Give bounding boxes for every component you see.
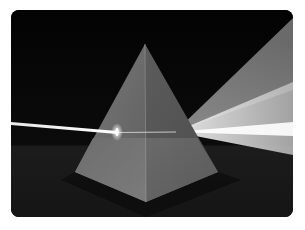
internal-light-beam — [117, 132, 176, 133]
prism-illustration — [11, 10, 293, 217]
entry-flare-core — [115, 128, 118, 136]
prism-photo — [11, 10, 293, 217]
